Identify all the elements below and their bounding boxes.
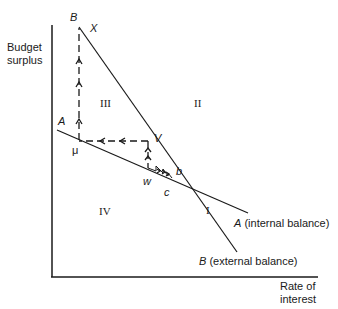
line-a-internal-balance [57, 130, 248, 213]
line-a-text: (internal balance) [244, 217, 329, 229]
region-iii: III [100, 97, 111, 110]
label-b-point: b [176, 165, 182, 178]
label-v: V [154, 132, 161, 145]
region-i: I [206, 204, 210, 217]
label-x: X [90, 22, 97, 35]
line-b-caption: B (external balance) [199, 255, 297, 268]
line-a-caption: A (internal balance) [234, 217, 329, 230]
line-b-letter: B [199, 255, 206, 267]
label-b-top: B [70, 11, 77, 24]
line-b-text: (external balance) [209, 255, 297, 267]
convergence-steps [148, 166, 172, 178]
y-axis-label-line2: surplus [7, 54, 42, 67]
x-axis-label-line2: interest [280, 293, 316, 306]
label-w: w [143, 175, 151, 188]
label-a-left: A [58, 115, 65, 128]
region-iv: IV [99, 205, 111, 218]
y-axis-label-line1: Budget [7, 41, 42, 54]
label-c: c [164, 186, 170, 199]
region-ii: II [194, 97, 201, 110]
x-axis-label-line1: Rate of [280, 280, 315, 293]
adjustment-path [79, 28, 148, 168]
line-a-letter: A [234, 217, 241, 229]
label-mu: μ [72, 144, 78, 157]
